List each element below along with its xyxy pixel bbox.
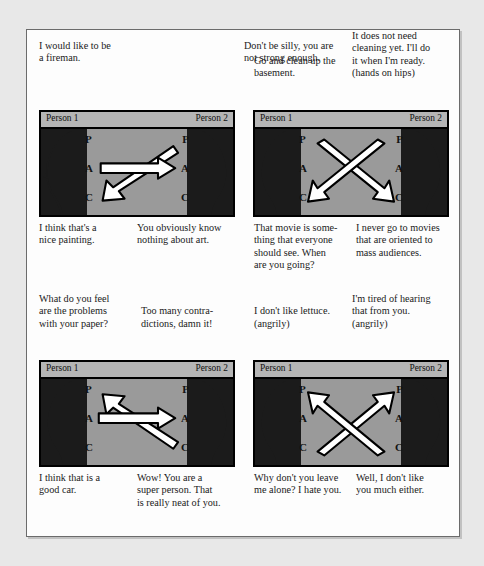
diagram-grid: I would like to be a fireman. Don't be s… bbox=[39, 40, 449, 528]
caption-above-left-2: Go and clean up the basement. bbox=[254, 31, 352, 80]
caption-below-left-1: I think that's a nice painting. bbox=[39, 222, 137, 247]
caption-below-right-1: You obviously know nothing about art. bbox=[137, 222, 235, 247]
panel-3-person-right-label: Person 2 bbox=[195, 363, 228, 373]
panel-3-body: P A C P A C bbox=[41, 379, 233, 465]
caption-above-left-3: What do you feel are the problems with y… bbox=[39, 293, 141, 330]
caption-above-right-2: It does not need cleaning yet. I'll do i… bbox=[352, 30, 450, 80]
caption-above-right-3: Too many contra- dictions, damn it! bbox=[141, 305, 235, 330]
caption-row-below-bottom-2: Why don't you leave me alone? I hate you… bbox=[254, 472, 450, 497]
panel-1-body: P A C P A C bbox=[41, 129, 233, 215]
panel-2-person-right-label: Person 2 bbox=[409, 113, 442, 123]
caption-row-above-bottom-2: I don't like lettuce. (angrily) I'm tire… bbox=[254, 293, 450, 330]
panel-4-person-left-label: Person 1 bbox=[260, 363, 293, 373]
panel-2-header: Person 1 Person 2 bbox=[255, 112, 447, 129]
caption-above-left-4: I don't like lettuce. (angrily) bbox=[254, 305, 352, 330]
caption-above-right-4: I'm tired of hearing that from you. (ang… bbox=[352, 293, 450, 330]
panel-1-transaction-arrows bbox=[41, 129, 233, 215]
caption-below-left-4: Why don't you leave me alone? I hate you… bbox=[254, 472, 356, 497]
caption-row-above-bottom-1: What do you feel are the problems with y… bbox=[39, 293, 235, 330]
panel-4-header: Person 1 Person 2 bbox=[255, 362, 447, 379]
panel-4[interactable]: Person 1 Person 2 P A C P A C bbox=[253, 360, 449, 467]
caption-row-below-top-2: That movie is some- thing that everyone … bbox=[254, 222, 450, 272]
panel-2-person-left-label: Person 1 bbox=[260, 113, 293, 123]
panel-1[interactable]: Person 1 Person 2 P A C P A C bbox=[39, 110, 235, 217]
page-sheet: I would like to be a fireman. Don't be s… bbox=[26, 29, 460, 537]
panel-4-body: P A C P A C bbox=[255, 379, 447, 465]
panel-2-transaction-arrows bbox=[255, 129, 447, 215]
panel-2[interactable]: Person 1 Person 2 P A C P A C bbox=[253, 110, 449, 217]
panel-2-body: P A C P A C bbox=[255, 129, 447, 215]
panel-row-top: Person 1 Person 2 P A C P A C bbox=[39, 110, 449, 217]
panel-1-person-left-label: Person 1 bbox=[46, 113, 79, 123]
panel-3-transaction-arrows bbox=[41, 379, 233, 465]
panel-4-person-right-label: Person 2 bbox=[409, 363, 442, 373]
caption-below-right-3: Wow! You are a super person. That is rea… bbox=[137, 472, 235, 509]
caption-below-left-2: That movie is some- thing that everyone … bbox=[254, 222, 356, 272]
panel-row-bottom: Person 1 Person 2 P A C P A C bbox=[39, 360, 449, 467]
caption-below-right-4: Well, I don't like you much either. bbox=[356, 472, 450, 497]
panel-1-person-right-label: Person 2 bbox=[195, 113, 228, 123]
caption-above-left-1: I would like to be a fireman. bbox=[39, 40, 244, 65]
caption-below-left-3: I think that is a good car. bbox=[39, 472, 137, 509]
panel-4-transaction-arrows bbox=[255, 379, 447, 465]
caption-row-above-top-2: Go and clean up the basement. It does no… bbox=[254, 30, 450, 80]
caption-row-below-top-1: I think that's a nice painting. You obvi… bbox=[39, 222, 235, 247]
panel-1-header: Person 1 Person 2 bbox=[41, 112, 233, 129]
caption-row-below-bottom-1: I think that is a good car. Wow! You are… bbox=[39, 472, 235, 509]
caption-below-right-2: I never go to movies that are oriented t… bbox=[356, 222, 450, 272]
panel-3-person-left-label: Person 1 bbox=[46, 363, 79, 373]
panel-3-header: Person 1 Person 2 bbox=[41, 362, 233, 379]
panel-3[interactable]: Person 1 Person 2 P A C P A C bbox=[39, 360, 235, 467]
